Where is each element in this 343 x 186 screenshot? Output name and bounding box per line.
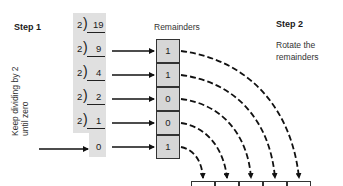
solid-arrows [39, 51, 154, 149]
curved-arrow-icon [181, 123, 227, 178]
curved-arrow-icon [181, 99, 251, 178]
arrows-layer [0, 0, 343, 186]
curved-arrow-icon [181, 147, 203, 178]
rotation-arrows [181, 51, 299, 178]
